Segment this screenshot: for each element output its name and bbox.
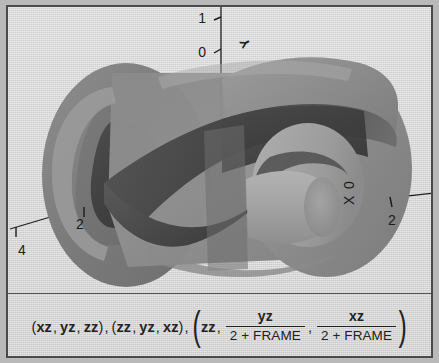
term3-frac1-bar [226,326,305,328]
term1-close-paren: ) [98,319,103,335]
vertical-tick-1 [214,17,221,20]
figure-caption: ( xz , yz , zz ) , ( zz , yz , xz ) , ( … [8,295,431,356]
term3-fraction-1: yz 2 + FRAME [226,309,305,344]
figure-frame: 1 0 Y 4 2 2 X 0 [6,5,433,358]
term3-close-paren: ) [399,310,407,343]
left-tick-label-2: 2 [76,216,84,232]
plot-area: 1 0 Y 4 2 2 X 0 [8,7,431,293]
term3-frac2-numerator: xz [343,309,370,325]
vertical-tick-0 [214,49,221,53]
term3-frac1-numerator: yz [252,309,279,325]
caption-sep-1: , [104,319,108,335]
caption-formula: ( xz , yz , zz ) , ( zz , yz , xz ) , ( … [32,309,408,344]
term3-fraction-2: xz 2 + FRAME [317,309,396,344]
right-tick-label-2: 2 [388,212,396,228]
term3-frac2-bar [317,326,396,328]
term2-close-paren: ) [178,319,183,335]
right-axis-label-x: X [341,195,357,205]
vertical-tick-label-1: 1 [198,10,206,26]
term3-open-paren: ( [192,310,200,343]
vertical-tick-label-0: 0 [198,44,206,60]
term1-b: yz [60,319,76,335]
term3-frac2-denominator: 2 + FRAME [317,328,396,344]
right-tick-label-0: 0 [341,181,357,189]
mid-column [204,125,248,271]
term2-b: yz [139,319,155,335]
term2-comma-2: , [156,319,160,335]
surface-plot-svg: 1 0 Y 4 2 2 X 0 [8,7,431,293]
term2-c: xz [163,319,179,335]
term1-a: xz [36,319,52,335]
inner-tube-cap [304,177,340,237]
surface-group [42,57,412,287]
screenshot-root: 1 0 Y 4 2 2 X 0 [0,0,439,363]
term2-a: zz [116,319,131,335]
term1-comma-2: , [77,319,81,335]
term3-comma-2: , [308,319,312,335]
vertical-axis-label: Y [236,36,253,51]
caption-separator [8,293,431,294]
term3-frac1-denominator: 2 + FRAME [226,328,305,344]
term3-comma-1: , [217,319,221,335]
term3-first: zz [201,319,216,335]
term1-c: zz [84,319,99,335]
caption-sep-2: , [184,319,188,335]
term2-comma-1: , [132,319,136,335]
left-tick-label-4: 4 [18,242,26,258]
term1-comma-1: , [53,319,57,335]
